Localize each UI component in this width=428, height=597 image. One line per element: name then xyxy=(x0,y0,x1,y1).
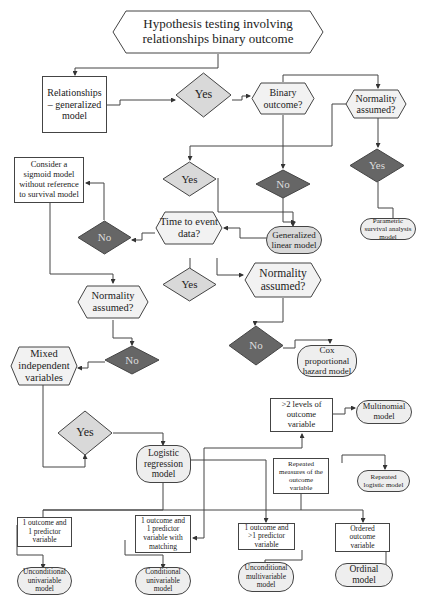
ordinal-terminal: Ordinal model xyxy=(335,563,393,587)
relationships-box: Relationships – generalized model xyxy=(42,76,107,133)
multinomial-terminal: Multinomial model xyxy=(356,400,412,424)
levels-box: >2 levels of outcome variable xyxy=(270,398,333,432)
start-label: Hypothesis testing involving relationshi… xyxy=(112,17,324,47)
unconditional-multivariable-terminal: Unconditional multivariable model xyxy=(238,562,294,592)
mixed-variables-decision: Mixed independent variables xyxy=(10,346,78,386)
repeated-measures-box: Repeated measures of the outcome variabl… xyxy=(273,458,329,494)
yes-decision-2: Yes xyxy=(162,161,217,197)
start-node: Hypothesis testing involving relationshi… xyxy=(112,10,324,54)
yes-decision-4: Yes xyxy=(57,410,113,456)
no-decision-3: No xyxy=(104,345,160,375)
no-decision-left: No xyxy=(77,220,132,255)
no-decision-1: No xyxy=(255,169,311,199)
o1pn-box: 1 outcome and >1 predictor variable xyxy=(238,523,295,550)
normality-decision-3: Normality assumed? xyxy=(244,262,322,298)
glm-terminal: Generalized linear model xyxy=(266,226,322,254)
unconditional-univariable-terminal: Unconditional univariable model xyxy=(17,567,72,595)
flowchart: Hypothesis testing involving relationshi… xyxy=(0,0,428,597)
o1p1-box: 1 outcome and 1 predictor variable xyxy=(17,517,72,547)
o1p1-matching-box: 1 outcome and 1 predictor variable with … xyxy=(135,515,191,553)
ordered-box: Ordered outcome variable xyxy=(335,523,390,552)
yes-decision-1: Yes xyxy=(175,72,232,118)
normality-decision-1: Normality assumed? xyxy=(345,89,407,119)
cox-terminal: Cox proportional hazard model xyxy=(297,345,357,377)
sigmoid-box: Consider a sigmoid model without referen… xyxy=(14,157,84,203)
repeated-logistic-terminal: Repeated logistic model xyxy=(357,470,410,492)
no-decision-2: No xyxy=(228,325,284,366)
yes-decision-right: Yes xyxy=(349,148,405,183)
normality-decision-2: Normality assumed? xyxy=(77,285,149,319)
conditional-univariable-terminal: Conditional univariable model xyxy=(135,567,191,595)
logistic-regression-terminal: Logistic regression model xyxy=(136,445,191,483)
yes-decision-3: Yes xyxy=(162,267,217,302)
parametric-survival-terminal: Parametric survival analysis model xyxy=(360,218,416,240)
time-to-event-decision: Time to event data? xyxy=(155,211,223,245)
binary-outcome-decision: Binary outcome? xyxy=(251,82,315,115)
